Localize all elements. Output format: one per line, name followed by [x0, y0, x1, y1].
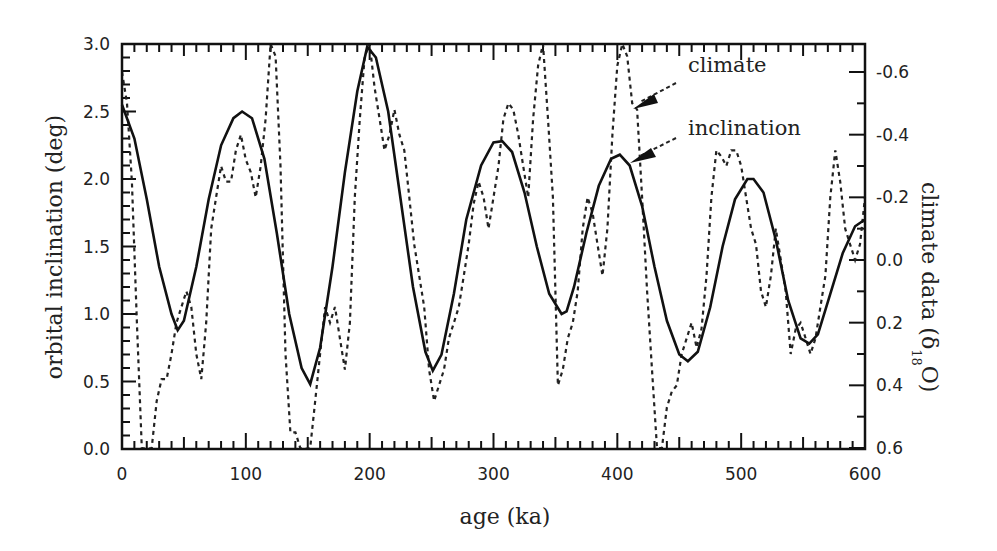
y-tick-label-left: 0.0 [83, 439, 110, 459]
y-tick-label-left: 1.5 [83, 237, 110, 257]
axis-ticks [122, 44, 865, 449]
y-tick-label-right: 0.0 [876, 250, 903, 270]
arrow-climate-head-icon [633, 94, 658, 109]
y-tick-label-left: 1.0 [83, 304, 110, 324]
annotation-climate: climate [688, 53, 767, 77]
arrow-inclination-head-icon [630, 148, 656, 163]
x-tick-label: 200 [353, 464, 385, 484]
y-axis-title-left: orbital inclination (deg) [42, 115, 67, 379]
annotation-inclination: inclination [688, 116, 801, 140]
y-axis-title-right-main: climate data (δ18O) [909, 182, 942, 392]
arrow-climate-shaft [640, 83, 676, 102]
y-tick-label-right: -0.2 [876, 187, 909, 207]
plot-frame [122, 44, 865, 449]
y-tick-label-left: 3.0 [83, 34, 110, 54]
x-tick-label: 500 [725, 464, 757, 484]
y-tick-label-right: 0.6 [876, 438, 903, 458]
y-tick-label-left: 2.0 [83, 169, 110, 189]
x-tick-label: 0 [117, 464, 128, 484]
chart-canvas: 01002003004005006000.00.51.01.52.02.53.0… [0, 0, 997, 551]
y-tick-label-right: 0.2 [876, 313, 903, 333]
x-tick-label: 400 [601, 464, 633, 484]
y-tick-label-left: 0.5 [83, 372, 110, 392]
x-tick-label: 100 [230, 464, 262, 484]
y-axis-title-right: climate data (δ18O) [909, 182, 942, 392]
x-tick-label: 300 [477, 464, 509, 484]
y-tick-label-right: -0.6 [876, 62, 909, 82]
y-tick-label-right: -0.4 [876, 125, 909, 145]
inclination-series-line [122, 47, 865, 385]
axis-tick-labels: 01002003004005006000.00.51.01.52.02.53.0… [83, 34, 909, 484]
y-tick-label-left: 2.5 [83, 102, 110, 122]
y-tick-label-right: 0.4 [876, 375, 903, 395]
climate-series-line [122, 44, 865, 449]
x-tick-label: 600 [849, 464, 881, 484]
x-axis-title: age (ka) [460, 504, 551, 529]
